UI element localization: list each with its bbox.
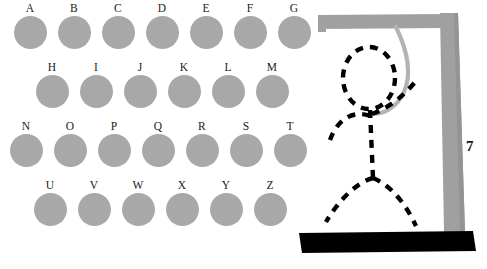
- letter-key-p[interactable]: P: [96, 120, 132, 167]
- letter-label: I: [78, 61, 114, 74]
- letter-disc[interactable]: [234, 16, 267, 49]
- letter-disc[interactable]: [98, 134, 131, 167]
- letter-disc[interactable]: [210, 193, 243, 226]
- letter-key-c[interactable]: C: [100, 2, 136, 49]
- letter-board: ABCDEFGHIJKLMNOPQRSTUVWXYZ: [0, 0, 305, 269]
- letter-disc[interactable]: [254, 193, 287, 226]
- letter-label: A: [12, 2, 48, 15]
- letter-disc[interactable]: [102, 16, 135, 49]
- letter-label: H: [34, 61, 70, 74]
- letter-label: L: [210, 61, 246, 74]
- letter-disc[interactable]: [34, 193, 67, 226]
- letter-key-i[interactable]: I: [78, 61, 114, 108]
- gallows-crossbar-stub: [318, 15, 326, 32]
- letter-disc[interactable]: [78, 193, 111, 226]
- letter-label: Z: [252, 179, 288, 192]
- letter-label: F: [232, 2, 268, 15]
- letter-key-u[interactable]: U: [32, 179, 68, 226]
- letter-disc[interactable]: [190, 16, 223, 49]
- letter-disc[interactable]: [146, 16, 179, 49]
- letter-label: S: [228, 120, 264, 133]
- letter-disc[interactable]: [142, 134, 175, 167]
- letter-disc[interactable]: [124, 75, 157, 108]
- letter-disc[interactable]: [36, 75, 69, 108]
- figure-head: [343, 47, 395, 109]
- letter-label: P: [96, 120, 132, 133]
- letter-label: W: [120, 179, 156, 192]
- letter-key-a[interactable]: A: [12, 2, 48, 49]
- gallows-crossbar: [318, 14, 445, 29]
- letter-label: J: [122, 61, 158, 74]
- letter-disc[interactable]: [58, 16, 91, 49]
- letter-label: M: [254, 61, 290, 74]
- figure-left-arm: [330, 114, 370, 140]
- letter-key-z[interactable]: Z: [252, 179, 288, 226]
- letter-key-k[interactable]: K: [166, 61, 202, 108]
- letter-label: O: [52, 120, 88, 133]
- letter-key-q[interactable]: Q: [140, 120, 176, 167]
- letter-label: K: [166, 61, 202, 74]
- figure-right-leg: [373, 178, 416, 226]
- letter-label: E: [188, 2, 224, 15]
- letter-disc[interactable]: [10, 134, 43, 167]
- letter-label: Q: [140, 120, 176, 133]
- letter-key-v[interactable]: V: [76, 179, 112, 226]
- letter-label: V: [76, 179, 112, 192]
- letter-key-s[interactable]: S: [228, 120, 264, 167]
- letter-disc[interactable]: [256, 75, 289, 108]
- letter-disc[interactable]: [54, 134, 87, 167]
- letter-key-x[interactable]: X: [164, 179, 200, 226]
- wrong-guess-count: 7: [466, 138, 474, 154]
- letter-disc[interactable]: [14, 16, 47, 49]
- letter-disc[interactable]: [168, 75, 201, 108]
- letter-key-m[interactable]: M: [254, 61, 290, 108]
- letter-disc[interactable]: [186, 134, 219, 167]
- letter-label: U: [32, 179, 68, 192]
- letter-disc[interactable]: [122, 193, 155, 226]
- letter-label: Y: [208, 179, 244, 192]
- letter-label: B: [56, 2, 92, 15]
- letter-label: R: [184, 120, 220, 133]
- letter-key-d[interactable]: D: [144, 2, 180, 49]
- letter-key-j[interactable]: J: [122, 61, 158, 108]
- letter-label: N: [8, 120, 44, 133]
- rope: [373, 27, 408, 113]
- letter-disc[interactable]: [166, 193, 199, 226]
- letter-key-w[interactable]: W: [120, 179, 156, 226]
- letter-label: X: [164, 179, 200, 192]
- letter-key-b[interactable]: B: [56, 2, 92, 49]
- gallows-panel: [290, 0, 487, 269]
- figure-left-leg: [326, 178, 373, 222]
- hangman-screen: ABCDEFGHIJKLMNOPQRSTUVWXYZ: [0, 0, 487, 269]
- letter-key-y[interactable]: Y: [208, 179, 244, 226]
- letter-key-n[interactable]: N: [8, 120, 44, 167]
- letter-disc[interactable]: [212, 75, 245, 108]
- gallows-drawing: [290, 0, 487, 269]
- figure-body: [370, 110, 373, 178]
- gallows-ground: [299, 231, 476, 253]
- letter-disc[interactable]: [80, 75, 113, 108]
- letter-key-f[interactable]: F: [232, 2, 268, 49]
- letter-key-o[interactable]: O: [52, 120, 88, 167]
- letter-label: C: [100, 2, 136, 15]
- letter-disc[interactable]: [230, 134, 263, 167]
- letter-key-e[interactable]: E: [188, 2, 224, 49]
- letter-key-h[interactable]: H: [34, 61, 70, 108]
- letter-label: D: [144, 2, 180, 15]
- letter-key-r[interactable]: R: [184, 120, 220, 167]
- letter-key-l[interactable]: L: [210, 61, 246, 108]
